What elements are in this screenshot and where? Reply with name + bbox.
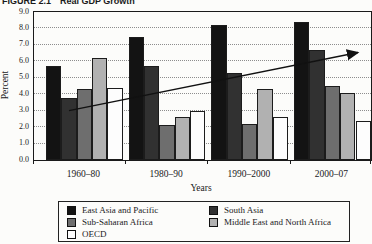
legend-label: South Asia [224,205,263,215]
x-axis-tick [207,160,208,164]
y-axis-title: Percent [0,71,10,100]
x-axis-tick-label: 1980–90 [149,169,182,179]
legend-swatch-icon [209,206,218,215]
y-axis-tick-label: 0.0 [0,155,31,164]
y-axis-tick-label: 1.0 [0,138,31,147]
legend-label: OECD [82,229,107,239]
y-axis-tick-label: 3.0 [0,105,31,114]
legend-items: East Asia and PacificSub-Saharan AfricaO… [67,204,349,240]
figure: FIGURE 2.1Real GDP Growth 0.01.02.03.04.… [0,0,372,244]
x-axis-tick [33,160,34,164]
legend-swatch-icon [67,230,76,239]
x-axis-tick-label: 2000–07 [315,169,348,179]
trend-arrow [34,12,371,160]
plot-area [33,11,372,161]
legend-swatch-icon [209,218,218,227]
legend-item: East Asia and Pacific [67,204,209,216]
x-axis-tick [125,160,126,164]
y-axis-tick-label: 8.0 [0,23,31,32]
y-axis-tick-label: 9.0 [0,7,31,16]
x-axis-tick [370,160,371,164]
legend-swatch-icon [67,206,76,215]
legend-label: Sub-Saharan Africa [82,217,153,227]
legend-item: Sub-Saharan Africa [67,216,209,228]
legend-swatch-icon [67,218,76,227]
y-axis-tick-label: 2.0 [0,122,31,131]
trend-line [69,52,358,110]
legend-item: Middle East and North Africa [209,216,331,228]
x-axis-tick-label: 1960–80 [67,169,100,179]
legend-column: East Asia and PacificSub-Saharan AfricaO… [67,204,209,240]
x-axis-labels: 1960–801980–901990–20002000–07 [33,169,370,181]
y-axis-tick-label: 7.0 [0,39,31,48]
chart: 0.01.02.03.04.05.06.07.08.09.0 Percent 1… [0,0,372,200]
x-axis-tick-label: 1990–2000 [227,169,270,179]
legend-label: Middle East and North Africa [224,217,331,227]
legend-column: South AsiaMiddle East and North Africa [209,204,331,240]
legend-box: East Asia and PacificSub-Saharan AfricaO… [58,201,350,242]
x-axis-title: Years [190,183,211,193]
legend-item: OECD [67,228,209,240]
legend-label: East Asia and Pacific [82,205,158,215]
legend-item: South Asia [209,204,331,216]
x-axis-tick [290,160,291,164]
y-axis-tick-label: 6.0 [0,56,31,65]
